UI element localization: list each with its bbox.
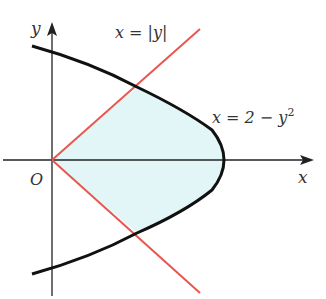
y-axis-label: y — [30, 18, 41, 38]
line-equation-label: x = |y| — [115, 23, 167, 42]
origin-label: O — [30, 170, 43, 189]
x-axis-label: x — [298, 167, 308, 187]
region-diagram: y x O x = |y| x = 2 − y2 — [0, 0, 326, 299]
parabola-equation-label: x = 2 − y2 — [212, 106, 294, 127]
parabola-equation-exponent: 2 — [287, 106, 294, 119]
parabola-equation-base: x = 2 − y — [212, 108, 288, 127]
